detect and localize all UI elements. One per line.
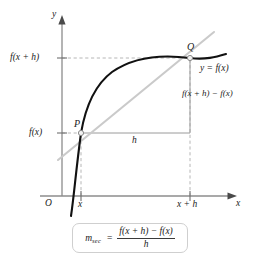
function-curve — [71, 54, 226, 216]
point-label-Q: Q — [187, 42, 194, 52]
point-label-P: P — [74, 119, 80, 129]
rise-label: f(x + h) − f(x) — [182, 89, 233, 98]
x-tick-label-x: x — [78, 200, 82, 210]
secant-line-diagram: y x O f(x + h) f(x) x x + h P Q y = f(x)… — [0, 0, 262, 262]
formula-equals-sign: = — [106, 233, 113, 243]
formula-numerator: f(x + h) − f(x) — [117, 227, 174, 238]
axes — [40, 22, 230, 196]
formula-fraction: f(x + h) − f(x) h — [117, 227, 174, 249]
y-axis-arrowhead — [58, 15, 65, 25]
point-P-marker — [78, 130, 83, 135]
y-tick-label-fx: f(x) — [29, 128, 42, 138]
x-axis-label: x — [236, 199, 240, 209]
secant-slope-formula-box: msec = f(x + h) − f(x) h — [72, 223, 188, 253]
formula-denominator: h — [142, 239, 151, 250]
formula-content: msec = f(x + h) − f(x) h — [73, 224, 187, 252]
tick-marks — [57, 58, 190, 201]
formula-lhs: msec — [85, 233, 102, 244]
point-Q-marker — [187, 55, 192, 60]
y-axis-label: y — [52, 10, 56, 20]
origin-label: O — [45, 199, 52, 209]
curve-label: y = f(x) — [200, 64, 229, 74]
formula-lhs-subscript: sec — [92, 236, 101, 243]
y-tick-label-fxh: f(x + h) — [10, 53, 39, 63]
run-label-h: h — [132, 136, 137, 146]
x-tick-label-x-plus-h: x + h — [177, 200, 197, 210]
